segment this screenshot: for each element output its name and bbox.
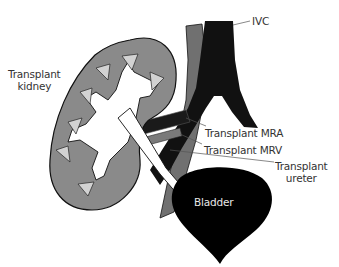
label-ureter-line1: Transplant	[275, 160, 328, 172]
label-kidney-line1: Transplant	[8, 68, 61, 80]
label-transplant-mra: Transplant MRA	[205, 127, 283, 139]
label-transplant-ureter: Transplant ureter	[275, 160, 328, 184]
bladder	[172, 167, 272, 264]
label-bladder: Bladder	[194, 196, 233, 208]
label-transplant-kidney: Transplant kidney	[8, 68, 61, 92]
anatomy-illustration	[0, 0, 339, 267]
label-kidney-line2: kidney	[8, 80, 61, 92]
label-ivc: IVC	[252, 15, 269, 27]
label-transplant-mrv: Transplant MRV	[204, 144, 282, 156]
label-ureter-line2: ureter	[275, 172, 328, 184]
transplant-kidney-diagram: Transplant kidney IVC Transplant MRA Tra…	[0, 0, 339, 267]
